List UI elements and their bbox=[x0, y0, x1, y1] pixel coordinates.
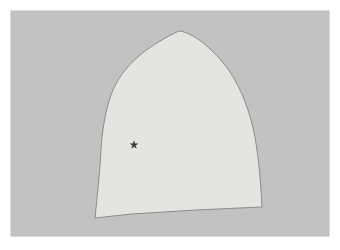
figure-canvas bbox=[0, 0, 340, 250]
figure-root bbox=[0, 0, 340, 250]
